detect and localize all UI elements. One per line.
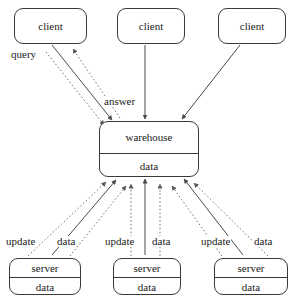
edge-client-right-solid [182,45,240,119]
edge-query-solid [52,45,112,120]
node-client-left[interactable]: client [14,8,87,44]
node-warehouse-label: warehouse [100,122,198,153]
node-server-left-data-label: data [10,277,80,296]
node-server-middle-label: server [114,259,180,277]
node-server-middle-data-label: data [114,277,180,296]
node-client-right-label: client [219,9,285,43]
edge-label-data-left: data [56,236,76,247]
edge-label-answer: answer [103,96,136,107]
edge-label-update-left: update [5,236,36,247]
edge-label-query: query [10,49,37,60]
node-client-middle[interactable]: client [117,8,185,44]
node-warehouse-data-label: data [100,153,198,178]
node-server-right-label: server [215,259,287,277]
node-client-left-label: client [15,9,86,43]
node-server-left[interactable]: server data [9,258,81,295]
node-warehouse[interactable]: warehouse data [99,121,199,177]
node-server-left-label: server [10,259,80,277]
node-server-right-data-label: data [215,277,287,296]
node-client-middle-label: client [118,9,184,43]
node-server-middle[interactable]: server data [113,258,181,295]
edge-answer-dotted [73,49,120,118]
edge-label-update-right: update [200,236,231,247]
node-server-right[interactable]: server data [214,258,288,295]
edge-client-left-dotted-down [46,52,104,125]
node-client-right[interactable]: client [218,8,286,44]
diagram-canvas: client client client warehouse data serv… [0,0,297,298]
edge-label-update-middle: update [104,236,135,247]
edge-label-data-middle: data [151,236,171,247]
edge-label-data-right: data [253,236,273,247]
